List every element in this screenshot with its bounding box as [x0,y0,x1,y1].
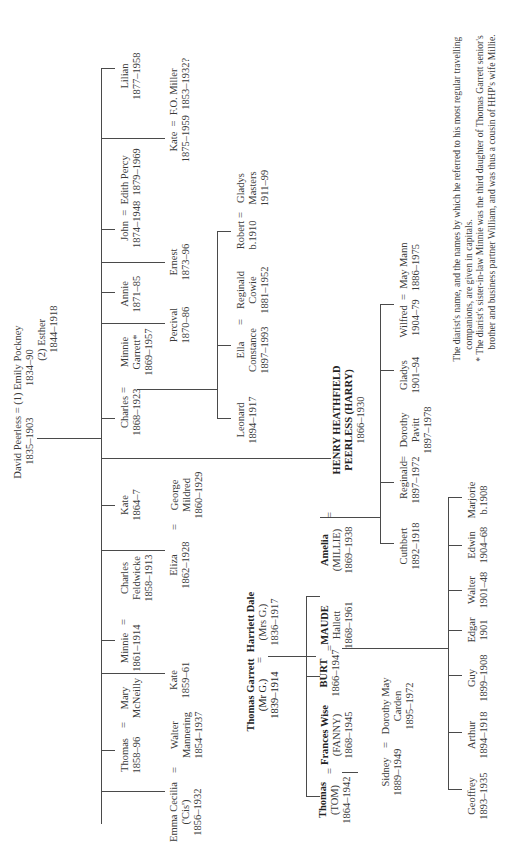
person-tom: Thomas(TOM)1864–1942 [317,776,353,823]
note-minnie: * The diarist's sister-in-law Minnie was… [474,34,486,361]
person-ernest: Ernest1873–96 [168,244,192,281]
person-george-mildred: GeorgeMildred1860–1929 [169,471,205,518]
person-maude-hallett: MAUDEHallett1868–1961 [319,601,355,648]
person-frances-fanny: Frances Wise(FANNY)1868–1945 [319,705,355,765]
person-harriett-dale: Harriett Dale(Mrs G.)1836–1917 [245,592,281,652]
tick-ella [217,345,231,346]
root-david-peerless: David Peerless = (1) Emily Pockney 1835–… [12,305,60,478]
person-edwin: Edwin1904–68 [466,527,490,564]
tick-marjorie [448,497,462,498]
tick-eliza [101,550,165,551]
eq-garrett-dale: = [254,657,266,663]
person-gladys-1901: Gladys1901–94 [398,357,422,394]
person-thomas-1858: Thomas1858–96 [119,737,143,774]
tick-walter [448,590,462,591]
eq-sidney-dorothy: = [380,742,392,748]
burt-children-spine [448,497,449,789]
person-arthur: Arthur1894–1918 [466,711,490,758]
person-robert: Robertb.1910 [235,221,259,250]
eq-charles-minnie: = [118,387,130,393]
harry-children-spine [380,304,381,544]
person-marjorie: Marjorieb.1908 [466,482,490,519]
garrett-children-spine [306,596,307,797]
eq-tom-fanny: = [324,768,336,774]
peerless-children-spine [101,68,102,192]
person-dorothy-may-carden: Dorothy MayCarden1895–1972 [380,678,416,735]
person-reginald-1897: Reginald1897–1972 [398,456,422,503]
person-charles: Charles1868–1923 [119,388,143,435]
tick-thomas [101,750,115,751]
person-reginald-cowie: ReginaldCowie1881–1952 [235,266,271,313]
person-kate-1875: Kate = F.O. Miller 1875–1959 1853–1932? [168,58,192,162]
eq-emma-walter: = [169,767,181,773]
person-john: John = Edith Percy 1874–1948 1879–1969 [119,148,143,248]
person-gladys-masters: GladysMasters1911–99 [235,170,271,206]
person-burt: BURT1866–1947 [318,649,342,696]
eq-harry-millie: = [324,512,336,518]
person-percival: Percival1870–86 [168,307,192,344]
eq-eliza-george: = [169,524,181,530]
person-walter-mannering: WalterMannering1854–1937 [169,711,205,758]
person-leonard: Leonard1894–1917 [235,396,259,443]
person-annie: Annie1871–85 [119,276,143,313]
person-edgar: Edgar1901 [466,617,490,642]
tick-lilian [101,68,115,69]
eq-ella-reginald: = [235,319,247,325]
person-geoffrey: Geoffrey1893–1935 [466,772,490,819]
charles-connector [137,389,217,390]
person-emma-cecilia: Emma Cecilia('Cis')1856–1932 [168,782,204,842]
tick-john [101,229,115,230]
tick-leonard [217,418,231,419]
person-lilian: Lilian1877–1958 [119,52,143,99]
tick-arthur [448,732,462,733]
person-walter: Walter1901–48 [466,572,490,609]
tick-kate-1859 [101,673,165,674]
person-guy: Guy1899–1908 [466,654,490,701]
tick-wilfred [380,304,394,305]
tick-gladys [380,370,394,371]
tick-percival [101,323,165,324]
tick-robert [217,231,231,232]
tick-cuthbert [380,543,394,544]
person-amelia-millie: Amelia(MILLIE)1869–1938 [319,526,355,573]
person-minnie-1861: Minnie1861–1914 [119,624,143,671]
eq-reginald-dorothy: = [398,456,410,462]
tick-guy [448,675,462,676]
person-wilfred: Wilfred = May Mann 1904–79 1886–1975 [398,242,422,337]
peerless-children-spine-lower [101,192,102,824]
tick-charles [101,418,115,419]
person-kate-1864: Kate1864–7 [119,489,143,521]
person-sidney: Sidney1889–1949 [380,748,404,795]
person-eliza: Eliza1862–1928 [168,541,192,588]
person-charles-feldwicke: CharlesFeldwicke1858–1913 [119,554,155,601]
eq-robert-gladys: = [235,212,247,218]
tick-harry [101,458,331,459]
person-cuthbert: Cuthbert1892–1918 [398,522,422,569]
tick-emma [101,791,165,792]
person-dorothy-pavitt: DorothyPavitt1897–1978 [398,406,434,453]
eq-thomas-mary: = [118,722,130,728]
tick-ernest [101,262,165,263]
tick-reginald [380,482,394,483]
person-thomas-garrett: Thomas Garrett(Mr G.)1839–1914 [245,658,281,731]
person-harry-diarist: HENRY HEATHFIELDPEERLESS (HARRY)1866–193… [331,365,367,474]
footnotes: The diarist's name, and the names by whi… [451,34,497,361]
tick-geoffrey [448,789,462,790]
burt-spine-join [342,648,448,649]
tick-kate-1875 [101,138,165,139]
note-capitals: The diarist's name, and the names by whi… [451,34,463,361]
tick-annie [101,292,115,293]
garrett-connector [268,656,316,657]
eq-minnie-charles: = [118,619,130,625]
person-minnie-garrett: MinnieGarrett*1869–1957 [119,328,155,375]
tick-millie [306,596,320,597]
person-kate-1859: Kate1859–61 [168,662,192,699]
tick-edwin [448,545,462,546]
charles-children-spine [217,231,218,418]
tom-connector [342,772,358,773]
tick-kate-1864 [101,505,115,506]
tick-edgar [448,630,462,631]
tick-minnie [101,640,115,641]
person-ella-constance: EllaConstance1897–1993 [235,326,271,373]
person-mary-mcneilly: MaryMcNeilly [119,678,143,718]
